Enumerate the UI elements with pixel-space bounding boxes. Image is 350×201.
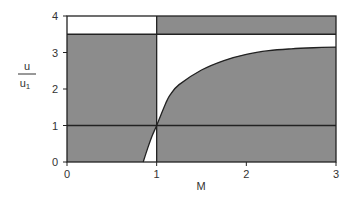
y-label-denominator: u1 <box>20 77 31 91</box>
y-tick-label: 1 <box>52 120 58 132</box>
y-tick-label: 3 <box>52 47 58 59</box>
shaded-region-under-curve <box>157 47 336 162</box>
x-axis-label: M <box>196 180 205 192</box>
y-tick-label: 2 <box>52 83 58 95</box>
x-tick-label: 3 <box>333 168 339 180</box>
x-tick-label: 1 <box>154 168 160 180</box>
y-axis-label: u u1 <box>18 60 36 91</box>
shaded-region-top-right <box>157 16 336 34</box>
plot-area <box>67 16 336 162</box>
y-tick-label: 4 <box>52 10 58 22</box>
x-tick-label: 0 <box>64 168 70 180</box>
shaded-region-left <box>67 34 157 162</box>
chart: 012301234 M u u1 <box>0 0 350 201</box>
x-tick-label: 2 <box>243 168 249 180</box>
y-label-numerator: u <box>24 60 30 72</box>
y-tick-label: 0 <box>52 156 58 168</box>
